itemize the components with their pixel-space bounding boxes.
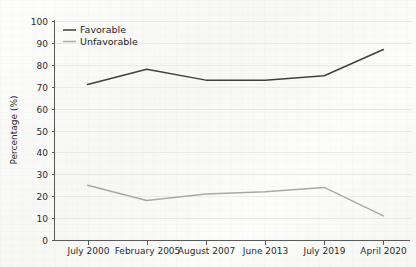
y-axis-tick-label: 0 [42,236,48,246]
y-axis-tick-label: 60 [37,105,49,115]
series-line-favorable [88,49,384,84]
y-axis-tick-label: 30 [37,170,49,180]
x-axis-tick-label: August 2007 [178,246,235,256]
y-axis-tick-label: 10 [37,214,49,224]
chart-container: 0102030405060708090100 Percentage (%) Ju… [0,0,416,267]
y-axis-tick-label: 50 [37,127,49,137]
x-axis: July 2000February 2005August 2007June 20… [55,241,411,257]
y-axis-tick-label: 70 [37,83,49,93]
data-series-group [88,49,384,215]
x-axis-tick-label: June 2013 [242,246,288,256]
y-axis-tick-label: 40 [37,148,49,158]
legend-label-favorable: Favorable [80,24,126,35]
series-line-unfavorable [88,185,384,216]
line-chart-plot: 0102030405060708090100 Percentage (%) Ju… [0,0,416,267]
x-axis-tick-label: July 2019 [303,246,346,256]
legend-label-unfavorable: Unfavorable [80,36,138,47]
x-axis-tick-label: July 2000 [67,246,110,256]
x-axis-tick-label: April 2020 [360,246,407,256]
y-axis: 0102030405060708090100 Percentage (%) [9,17,55,246]
y-axis-title: Percentage (%) [9,95,19,164]
gridlines [55,22,412,219]
y-axis-tick-label: 80 [37,61,49,71]
y-axis-tick-label: 100 [31,17,48,27]
x-axis-tick-marks [89,241,384,245]
y-axis-tick-label: 90 [37,39,49,49]
x-axis-tick-labels: July 2000February 2005August 2007June 20… [67,246,407,256]
y-axis-tick-labels: 0102030405060708090100 [31,17,48,246]
x-axis-tick-label: February 2005 [115,246,181,256]
y-axis-tick-label: 20 [37,192,49,202]
